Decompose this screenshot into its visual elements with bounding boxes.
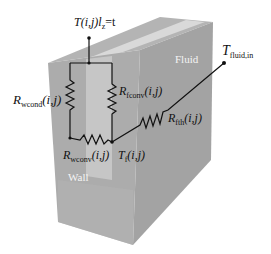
r-wconv-label: Rwconv(i,j)	[63, 149, 109, 164]
r-wcond-label: Rwcond(i,j)	[13, 93, 61, 109]
top-node-label: T(i,j)lz=t	[74, 16, 115, 31]
fluid-region-label: Fluid	[175, 54, 198, 65]
r-fconv-label: Rfconv(i,j)	[119, 85, 162, 100]
wall-region-label: Wall	[68, 172, 89, 183]
r-fth-label: Rfth(i,j)	[168, 112, 202, 127]
tf-node-label: Tf(i,j)	[118, 149, 145, 164]
block-diagram	[0, 0, 271, 254]
front-face-shade	[58, 180, 133, 245]
fluid-inlet-label: Tfluid,in	[222, 44, 253, 60]
right-face	[133, 22, 213, 245]
